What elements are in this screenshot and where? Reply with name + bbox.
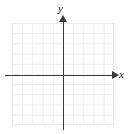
- x-axis: [5, 75, 116, 77]
- x-axis-label: x: [119, 69, 124, 80]
- coordinate-plane-figure: x y: [0, 0, 130, 134]
- arrow-right-icon: [112, 71, 119, 79]
- y-axis-label: y: [58, 3, 63, 14]
- y-axis: [63, 19, 65, 130]
- arrow-up-icon: [59, 15, 67, 22]
